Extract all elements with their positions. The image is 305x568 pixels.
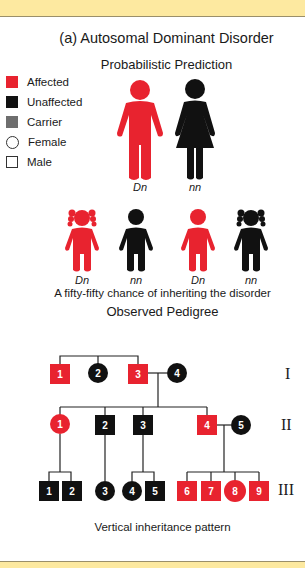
pedigree-title: Observed Pedigree (0, 304, 305, 319)
gen-I-individual-3: 3 (128, 364, 148, 384)
prediction-caption: A fifty-fifty chance of inheriting the d… (0, 287, 305, 299)
gen-III-individual-1: 1 (39, 481, 59, 501)
pedigree-lines (49, 356, 259, 481)
generation-label-I: I (285, 365, 290, 383)
gen-II-individual-3: 3 (133, 415, 153, 435)
generation-label-II: II (281, 416, 292, 434)
svg-text:6: 6 (184, 486, 190, 497)
svg-text:2: 2 (95, 368, 101, 379)
svg-text:4: 4 (129, 486, 135, 497)
gen-III-individual-5: 5 (145, 481, 165, 501)
father-figure-icon (117, 80, 163, 180)
gen-III-individual-7: 7 (201, 481, 221, 501)
gen-I-individual-4: 4 (167, 363, 187, 383)
svg-text:5: 5 (238, 420, 244, 431)
prediction-figures (0, 0, 305, 300)
svg-text:1: 1 (57, 369, 63, 380)
gen-II-individual-2: 2 (95, 415, 115, 435)
svg-text:8: 8 (232, 486, 238, 497)
svg-text:4: 4 (174, 368, 180, 379)
gen-III-individual-6: 6 (177, 481, 197, 501)
bottom-banner (0, 561, 305, 568)
svg-text:2: 2 (69, 486, 75, 497)
svg-text:2: 2 (102, 420, 108, 431)
child-genotype: nn (231, 274, 271, 286)
svg-text:5: 5 (152, 486, 158, 497)
child-genotype: nn (116, 274, 156, 286)
svg-text:1: 1 (57, 419, 63, 430)
svg-text:3: 3 (140, 420, 146, 431)
gen-III-individual-4: 4 (122, 481, 142, 501)
gen-II-individual-1: 1 (50, 414, 70, 434)
gen-III-individual-2: 2 (62, 481, 82, 501)
svg-text:9: 9 (256, 486, 262, 497)
gen-III-individual-8: 8 (224, 480, 246, 502)
son-unaffected-figure-icon (119, 209, 153, 272)
child-genotype: Dn (178, 274, 218, 286)
daughter-unaffected-figure-icon (234, 210, 268, 272)
svg-text:4: 4 (204, 420, 210, 431)
mother-figure-icon (175, 79, 215, 180)
son-affected-figure-icon (181, 209, 215, 272)
daughter-affected-figure-icon (65, 210, 99, 272)
pedigree-caption: Vertical inheritance pattern (0, 521, 305, 533)
child-genotype: Dn (62, 274, 102, 286)
gen-III-individual-3: 3 (95, 481, 115, 501)
svg-text:3: 3 (102, 486, 108, 497)
mother-genotype: nn (175, 181, 215, 193)
gen-I-individual-1: 1 (50, 364, 70, 384)
pedigree-chart: 1 2 3 4 1 2 3 4 5 1 2 3 4 5 6 7 8 9 (0, 340, 305, 510)
svg-text:3: 3 (135, 369, 141, 380)
gen-II-individual-4: 4 (197, 415, 217, 435)
gen-I-individual-2: 2 (88, 363, 108, 383)
svg-text:7: 7 (208, 486, 214, 497)
gen-III-individual-9: 9 (249, 481, 269, 501)
father-genotype: Dn (120, 181, 160, 193)
svg-text:1: 1 (46, 486, 52, 497)
gen-II-individual-5: 5 (231, 415, 251, 435)
generation-label-III: III (278, 481, 294, 499)
